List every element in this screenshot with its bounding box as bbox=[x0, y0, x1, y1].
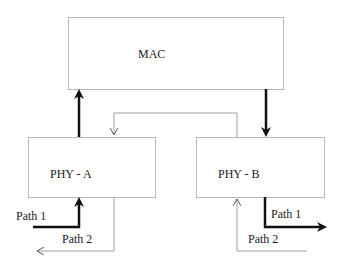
connector-layer bbox=[0, 0, 343, 269]
phy-a-path1-label: Path 1 bbox=[16, 209, 46, 224]
phy-a-path2-label: Path 2 bbox=[62, 232, 92, 247]
phy-a-label: PHY - A bbox=[50, 167, 92, 182]
phy-b-path2-label: Path 2 bbox=[248, 232, 278, 247]
phy-b-label: PHY - B bbox=[218, 167, 260, 182]
phy-b-to-phy-a-loopback-arrow bbox=[114, 113, 237, 137]
phy-b-path1-label: Path 1 bbox=[271, 207, 301, 222]
mac-label: MAC bbox=[138, 47, 165, 62]
